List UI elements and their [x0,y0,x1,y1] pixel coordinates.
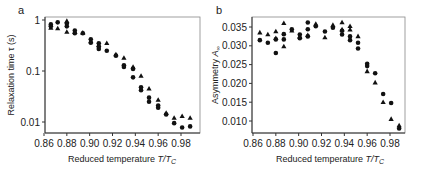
panel-a-plot-frame [45,17,200,133]
panel-a-y-ticks: 0.010.11 [21,15,45,128]
svg-text:0.96: 0.96 [357,138,377,149]
svg-text:0.01: 0.01 [21,117,41,128]
svg-text:0.035: 0.035 [222,22,247,33]
svg-text:0.90: 0.90 [80,138,100,149]
svg-text:0.010: 0.010 [222,116,247,127]
svg-text:0.92: 0.92 [103,138,123,149]
panel-b-plot-frame [252,17,405,133]
panel-b-x-axis-label: Reduced temperature T/TC [276,154,385,165]
panel-a-y-axis-label: Relaxation time τ (s) [6,34,16,115]
svg-text:0.88: 0.88 [266,138,286,149]
svg-text:0.86: 0.86 [243,138,263,149]
panel-a-x-ticks: 0.860.880.900.920.940.960.98 [34,133,191,149]
panel-a-x-axis-label: Reduced temperature T/TC [68,154,177,165]
svg-text:0.90: 0.90 [289,138,309,149]
svg-text:0.020: 0.020 [222,78,247,89]
panel-a-relaxation-time-chart: a 0.010.11 0.860.880.900.920.940.960.98 … [6,4,200,165]
svg-text:0.88: 0.88 [57,138,77,149]
svg-text:0.86: 0.86 [34,138,54,149]
panel-a-label: a [18,4,25,16]
panel-b-y-ticks: 0.0100.0150.0200.0250.0300.035 [222,22,252,127]
svg-text:0.030: 0.030 [222,40,247,51]
panel-b-asymmetry-chart: b 0.0100.0150.0200.0250.0300.035 0.860.8… [210,4,405,165]
svg-text:0.94: 0.94 [126,138,146,149]
svg-text:0.92: 0.92 [312,138,332,149]
svg-text:0.98: 0.98 [171,138,191,149]
svg-text:0.96: 0.96 [148,138,168,149]
figure: a 0.010.11 0.860.880.900.920.940.960.98 … [0,0,423,174]
svg-text:0.98: 0.98 [380,138,400,149]
svg-text:0.1: 0.1 [26,66,40,77]
svg-text:0.015: 0.015 [222,97,247,108]
svg-text:0.025: 0.025 [222,59,247,70]
svg-text:1: 1 [34,15,40,26]
panel-a-data-points [48,18,192,129]
panel-b-y-axis-label: Asymmetry A∞ [210,46,221,104]
panel-b-data-points [257,20,401,131]
panel-b-x-ticks: 0.860.880.900.920.940.960.98 [243,133,400,149]
panel-b-label: b [216,4,222,16]
svg-text:0.94: 0.94 [335,138,355,149]
